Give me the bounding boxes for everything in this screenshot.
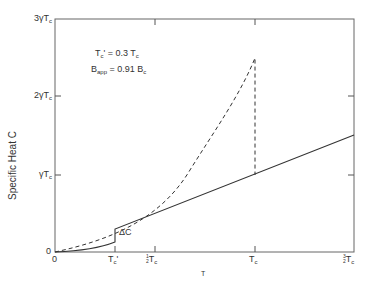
annotation-tc-prime: Tc' = 0.3 Tc — [95, 48, 139, 59]
y-tick-0: 0 — [46, 246, 51, 256]
dashed-curve — [55, 58, 255, 252]
y-tick-3: 3γTc — [34, 13, 52, 24]
annotation-bapp: Bapp = 0.91 Bc — [91, 64, 146, 75]
solid-curve — [55, 135, 354, 252]
x-tick-tcprime: Tc' — [108, 254, 118, 265]
x-tick-0: 0 — [52, 254, 57, 264]
x-axis-label: T — [201, 270, 205, 277]
x-tick-half: 12Tc — [146, 254, 157, 265]
x-tick-tc: Tc — [249, 254, 258, 265]
y-axis-label: Specific Heat C — [7, 131, 18, 200]
y-tick-2: 2γTc — [34, 90, 52, 101]
chart-plot — [0, 0, 370, 286]
delta-c-label: ΔC — [119, 227, 132, 237]
x-tick-threehalf: 32Tc — [343, 254, 354, 265]
y-tick-1: γTc — [39, 169, 52, 180]
